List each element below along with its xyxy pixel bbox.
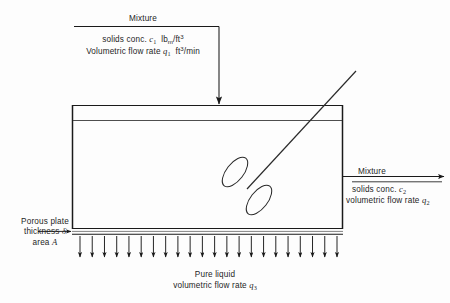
permeate-label-line1: Pure liquid [130, 269, 300, 281]
impeller-shaft [247, 71, 356, 189]
porous-plate-thickness-label: thickness δ [8, 226, 82, 238]
inlet-flow-rate-label: Volumetric flow rate q1 ft3/min [63, 43, 223, 60]
diagram-canvas: Mixture solids conc. c1 lbm/ft3 Volumetr… [0, 0, 450, 303]
tank-vessel [72, 105, 343, 229]
inlet-flow-units-per-min: /min [184, 47, 200, 56]
impeller-blade-upper [217, 153, 252, 191]
inlet-flow-text: Volumetric flow rate [86, 47, 160, 56]
porous-plate [72, 229, 343, 235]
outlet-solids-text: solids conc. [352, 185, 397, 194]
permeate-flow-subscript: 3 [254, 284, 257, 291]
inlet-units-exponent: 3 [180, 33, 183, 40]
porous-plate-area-label: area A [8, 237, 82, 249]
porous-plate-area-text: area [33, 238, 50, 247]
impeller-blade-lower [241, 181, 276, 219]
permeate-arrow-group [80, 236, 337, 257]
outlet-solids-subscript: 2 [403, 188, 406, 195]
outlet-flow-subscript: 2 [426, 199, 429, 206]
outlet-flow-text: volumetric flow rate [346, 196, 420, 205]
inlet-flow-subscript: 1 [168, 50, 171, 57]
outlet-title: Mixture [358, 166, 386, 178]
permeate-flow-rate-label: volumetric flow rate q3 [130, 280, 300, 294]
impeller-assembly [217, 71, 356, 219]
outlet-flow-rate-label: volumetric flow rate q2 [346, 195, 430, 209]
inlet-title: Mixture [63, 13, 223, 25]
porous-plate-area-symbol: A [52, 237, 57, 247]
permeate-flow-text: volumetric flow rate [173, 281, 247, 290]
porous-plate-thickness-text: thickness [24, 227, 59, 236]
inlet-label-group: Mixture solids conc. c1 lbm/ft3 Volumetr… [63, 13, 223, 25]
porous-plate-thickness-symbol: δ [62, 226, 66, 236]
